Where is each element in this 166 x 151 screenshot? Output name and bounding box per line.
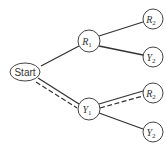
edge-start-y1-solid xyxy=(38,78,79,104)
edge-start-y1-dashed xyxy=(36,82,77,108)
node-r1-r2-sub: 2 xyxy=(152,19,156,27)
node-y1-r2: R2 xyxy=(143,83,163,103)
edge-r1-r2 xyxy=(99,22,143,36)
node-y1-r2-letter: R xyxy=(145,88,152,99)
edge-r1-y2 xyxy=(99,46,143,55)
node-r1: R1 xyxy=(78,30,100,52)
node-r1-r2: R2 xyxy=(143,9,163,29)
node-y1-sub: 1 xyxy=(88,109,92,117)
node-r1-y2: Y2 xyxy=(143,47,163,67)
node-r1-r2-letter: R xyxy=(145,14,152,25)
node-y1-y2: Y2 xyxy=(143,122,163,142)
node-r1-sub: 1 xyxy=(88,41,92,49)
node-y1-y2-sub: 2 xyxy=(152,132,156,140)
tree-diagram: Start R1 Y1 R2 Y2 R2 Y2 xyxy=(0,0,166,151)
edge-start-r1 xyxy=(41,46,79,66)
node-start: Start xyxy=(10,63,40,81)
node-r1-y2-sub: 2 xyxy=(152,57,156,65)
node-start-label: Start xyxy=(14,67,35,78)
edge-y1-y2 xyxy=(99,113,143,129)
node-y1: Y1 xyxy=(78,98,100,120)
node-y1-r2-sub: 2 xyxy=(152,93,156,101)
node-r1-letter: R xyxy=(81,36,88,47)
